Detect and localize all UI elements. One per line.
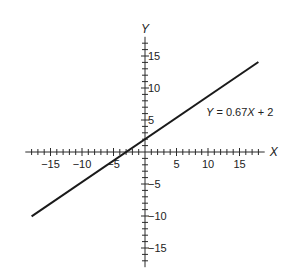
x-tick-label: 15 xyxy=(233,158,245,170)
y-tick-label: 5 xyxy=(148,114,154,126)
equation-annotation: Y = 0.67X + 2 xyxy=(206,106,273,118)
y-tick-label: −15 xyxy=(148,242,167,254)
x-tick-label: −15 xyxy=(41,158,60,170)
annotation-part: + 2 xyxy=(255,106,274,118)
y-axis-label: Y xyxy=(141,22,150,36)
axes xyxy=(25,37,264,267)
x-tick-label: 10 xyxy=(202,158,214,170)
x-tick-label: 5 xyxy=(173,158,179,170)
y-tick-label: 15 xyxy=(148,50,160,62)
y-tick-label: 10 xyxy=(148,82,160,94)
x-axis-label: X xyxy=(269,145,279,159)
annotation-part: = 0.67 xyxy=(213,106,247,118)
x-tick-label: −10 xyxy=(73,158,92,170)
y-tick-label: −5 xyxy=(148,178,161,190)
y-tick-label: −10 xyxy=(148,210,167,222)
linear-equation-chart: −15−10−55101515105−5−10−15 X Y Y = 0.67X… xyxy=(0,0,305,276)
